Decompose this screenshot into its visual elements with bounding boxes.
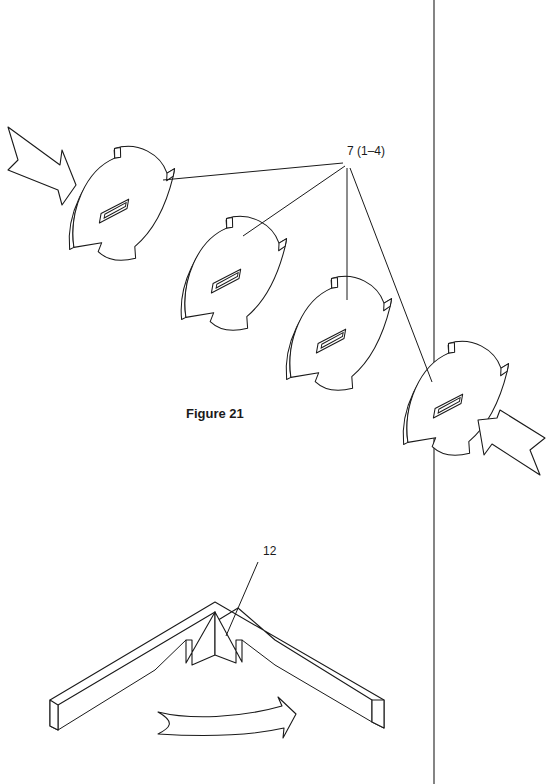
patent-drawing-canvas	[0, 0, 551, 784]
leader-line-corner	[226, 562, 258, 636]
disc-1	[66, 138, 177, 267]
curved-arrow-icon	[158, 697, 296, 738]
arrow-in-icon	[8, 127, 76, 205]
reference-label-discs: 7 (1–4)	[347, 144, 385, 158]
disc-3	[283, 268, 394, 397]
figure-caption: Figure 21	[186, 406, 244, 421]
arrow-out-icon	[478, 410, 545, 475]
reference-label-corner: 12	[263, 544, 276, 558]
v-shaped-strip	[50, 602, 384, 730]
disc-2	[178, 208, 289, 337]
